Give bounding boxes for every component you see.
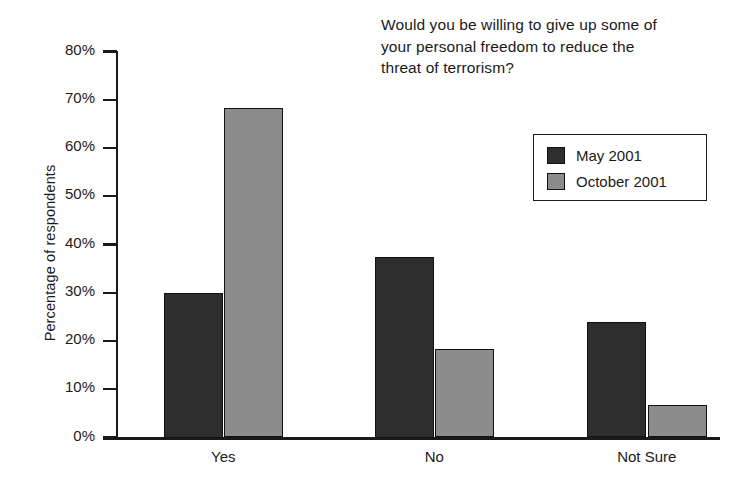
legend-label: October 2001 — [576, 173, 667, 190]
y-axis-tick-label: 0% — [31, 427, 95, 444]
legend-swatch-icon — [547, 173, 565, 190]
x-axis-label-no: No — [425, 448, 444, 465]
y-axis-tick — [103, 50, 117, 52]
y-axis-label: Percentage of respondents — [42, 113, 58, 393]
chart-title: Would you be willing to give up some of … — [381, 14, 711, 79]
y-axis-tick-label: 10% — [31, 378, 95, 395]
legend-label: May 2001 — [576, 147, 642, 164]
bar-not-sure-may-2001 — [587, 322, 646, 438]
y-axis-tick — [103, 147, 117, 149]
legend-item-may-2001: May 2001 — [547, 142, 706, 168]
y-axis-tick — [103, 243, 117, 245]
x-axis-label-yes: Yes — [211, 448, 235, 465]
bar-yes-may-2001 — [164, 293, 223, 438]
legend: May 2001October 2001 — [533, 134, 707, 201]
bar-no-may-2001 — [375, 257, 434, 438]
bar-yes-october-2001 — [224, 108, 283, 438]
y-axis-tick — [103, 195, 117, 197]
y-axis-tick — [103, 388, 117, 390]
bar-no-october-2001 — [435, 349, 494, 438]
y-axis-tick-label: 40% — [31, 234, 95, 251]
bar-chart: Would you be willing to give up some of … — [0, 0, 731, 502]
y-axis-tick-label: 60% — [31, 137, 95, 154]
x-axis-label-not-sure: Not Sure — [617, 448, 676, 465]
legend-item-october-2001: October 2001 — [547, 168, 706, 194]
legend-swatch-icon — [547, 147, 565, 164]
y-axis-tick-label: 70% — [31, 89, 95, 106]
bar-not-sure-october-2001 — [648, 405, 707, 438]
y-axis-tick-label: 50% — [31, 185, 95, 202]
y-axis-tick-label: 20% — [31, 330, 95, 347]
y-axis-tick — [103, 99, 117, 101]
y-axis-tick — [103, 436, 117, 438]
y-axis-tick-label: 30% — [31, 282, 95, 299]
y-axis-tick — [103, 292, 117, 294]
y-axis-tick — [103, 340, 117, 342]
y-axis-tick-label: 80% — [31, 41, 95, 58]
